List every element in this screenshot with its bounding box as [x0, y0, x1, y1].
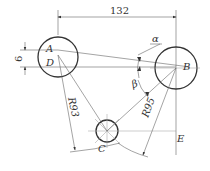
dimension-6: 6 — [13, 56, 24, 62]
arc-r95 — [118, 143, 148, 157]
label-r93: R93 — [66, 95, 81, 118]
line-b-c — [107, 68, 176, 131]
label-e: E — [176, 133, 185, 144]
beta-arc — [138, 80, 147, 96]
dimension-132: 132 — [110, 5, 129, 16]
circle-a — [38, 37, 78, 77]
angle-arc — [138, 58, 140, 78]
label-d: D — [45, 57, 54, 68]
label-beta: β — [129, 77, 139, 90]
label-c: C — [98, 143, 106, 154]
label-a: A — [45, 43, 53, 54]
label-alpha: α — [152, 33, 159, 44]
line-d-c — [58, 55, 107, 131]
alpha-leader — [138, 44, 160, 55]
arc-r93 — [70, 143, 120, 152]
label-b: B — [182, 61, 190, 72]
angle-arrow-top — [137, 57, 141, 62]
geometry-diagram: 132 6 R93 R95 α β A B C D E — [0, 0, 210, 171]
